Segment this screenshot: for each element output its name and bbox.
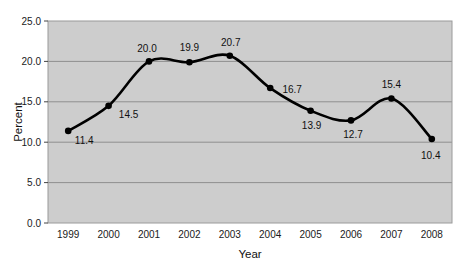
x-tick-label-2005: 2005 [299, 229, 322, 240]
data-point-2000 [105, 103, 112, 110]
data-point-2005 [307, 107, 314, 114]
data-label-1999: 11.4 [75, 135, 94, 146]
x-tick-label-2002: 2002 [178, 229, 201, 240]
data-label-2006: 12.7 [343, 129, 363, 140]
data-label-2008: 10.4 [421, 150, 441, 161]
x-tick-label-2008: 2008 [421, 229, 444, 240]
x-tick-label-2007: 2007 [380, 229, 403, 240]
data-label-2003: 20.7 [221, 37, 241, 48]
x-tick-label-2000: 2000 [97, 229, 120, 240]
x-tick-label-2004: 2004 [259, 229, 282, 240]
data-label-2005: 13.9 [302, 120, 322, 131]
y-tick-label-2: 10.0 [22, 137, 42, 148]
data-label-2007: 15.4 [382, 79, 402, 90]
y-tick-label-3: 15.0 [22, 96, 42, 107]
x-tick-label-1999: 1999 [57, 229, 80, 240]
data-label-2000: 14.5 [119, 109, 139, 120]
x-tick-label-2003: 2003 [219, 229, 242, 240]
line-chart: 0.05.010.015.020.025.0 19992000200120022… [0, 0, 466, 268]
y-tick-label-0: 0.0 [27, 218, 41, 229]
data-point-2001 [146, 58, 153, 65]
y-tick-label-5: 25.0 [22, 16, 42, 27]
data-point-2007 [388, 95, 395, 102]
x-tick-label-2006: 2006 [340, 229, 363, 240]
data-point-2006 [348, 117, 355, 124]
data-label-2001: 20.0 [137, 43, 157, 54]
x-tick-label-2001: 2001 [138, 229, 161, 240]
data-label-2004: 16.7 [282, 84, 302, 95]
data-point-2003 [227, 52, 234, 59]
y-axis-title: Percent [12, 101, 24, 141]
data-label-2002: 19.9 [180, 42, 200, 53]
plot-area-background [48, 21, 452, 223]
data-point-2004 [267, 85, 274, 92]
chart-container: 0.05.010.015.020.025.0 19992000200120022… [0, 0, 466, 268]
data-point-2008 [429, 136, 436, 143]
x-axis-title: Year [238, 248, 261, 260]
data-point-2002 [186, 59, 193, 66]
y-tick-label-1: 5.0 [27, 177, 41, 188]
data-point-1999 [65, 128, 72, 135]
y-tick-label-4: 20.0 [22, 56, 42, 67]
